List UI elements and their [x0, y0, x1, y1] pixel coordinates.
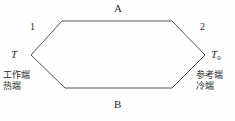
conductor-a-label: A — [114, 3, 122, 14]
junction-2-label: 2 — [200, 22, 205, 32]
hot-end-line-1: 工作端 — [3, 70, 30, 81]
temperature-t-label: T — [11, 49, 17, 60]
hot-end-line-2: 热端 — [3, 81, 30, 92]
temperature-t0-label: T0 — [211, 49, 221, 60]
hot-end-description: 工作端 热端 — [3, 70, 30, 92]
cold-end-line-1: 参考端 — [196, 70, 223, 81]
cold-end-line-2: 冷端 — [196, 81, 223, 92]
junction-1-label: 1 — [30, 22, 35, 32]
conductor-a-path — [31, 21, 205, 55]
conductor-b-path — [31, 55, 205, 88]
thermocouple-diagram-canvas: A B 1 2 T T0 工作端 热端 参考端 冷端 — [0, 0, 235, 121]
conductor-b-label: B — [114, 99, 121, 110]
temperature-t0-subscript: 0 — [217, 54, 221, 62]
cold-end-description: 参考端 冷端 — [196, 70, 223, 92]
